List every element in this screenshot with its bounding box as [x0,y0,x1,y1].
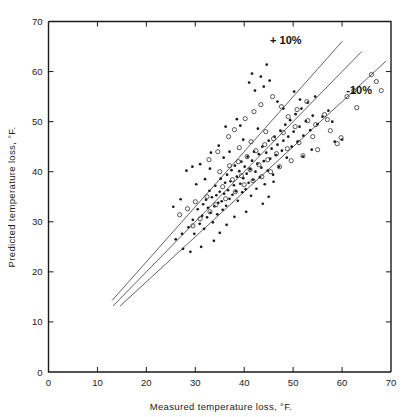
data-point-filled [213,239,216,242]
data-point-filled [254,170,257,173]
data-point-filled [196,208,199,211]
data-point-filled [267,139,270,142]
data-point-filled [217,144,220,147]
data-point-filled [242,138,245,141]
x-tick-label-0: 0 [46,377,51,388]
data-point-filled [187,226,190,229]
data-point-filled [270,147,273,150]
y-tick-label-70: 70 [32,16,43,27]
data-point-filled [172,205,175,208]
data-point-filled [222,156,225,159]
data-point-filled [218,190,221,193]
data-point-filled [212,221,215,224]
data-point-filled [309,129,312,132]
data-point-filled [202,203,205,206]
x-axis-title: Measured temperature loss, °F. [150,401,293,412]
y-tick-label-0: 0 [37,367,42,378]
data-point-filled [233,215,236,218]
data-point-filled [248,81,251,84]
data-point-filled [276,100,279,103]
data-point-filled [237,199,240,202]
x-tick-label-60: 60 [337,377,348,388]
data-point-filled [207,206,210,209]
x-tick-label-50: 50 [288,377,299,388]
plot-background [0,0,408,417]
data-point-filled [245,172,248,175]
data-point-filled [199,163,202,166]
data-point-filled [263,183,266,186]
data-point-filled [292,130,295,133]
y-tick-label-60: 60 [32,66,43,77]
data-point-filled [262,160,265,163]
data-point-filled [272,173,275,176]
data-point-filled [314,95,317,98]
figure-container: 010203040506070 010203040506070 + 10%-10… [0,0,408,417]
data-point-filled [225,223,228,226]
y-tick-label-30: 30 [32,216,43,227]
data-point-filled [265,63,268,66]
data-point-filled [258,153,261,156]
data-point-filled [214,184,217,187]
data-point-filled [245,210,248,213]
data-point-filled [191,165,194,168]
data-point-filled [260,166,263,169]
data-point-filled [310,148,313,151]
data-point-filled [210,151,213,154]
data-point-filled [204,178,207,181]
data-point-filled [247,181,250,184]
data-point-filled [299,98,302,101]
y-tick-label-40: 40 [32,166,43,177]
y-axis-title: Predicted temperature loss, °F. [6,127,17,268]
data-point-filled [216,213,219,216]
data-point-filled [189,250,192,253]
data-point-filled [211,196,214,199]
y-tick-label-20: 20 [32,266,43,277]
data-point-filled [262,85,265,88]
data-point-filled [265,151,268,154]
data-point-filled [272,180,275,183]
data-point-filled [294,113,297,116]
data-point-filled [224,181,227,184]
data-point-filled [293,90,296,93]
data-point-filled [203,227,206,230]
data-point-filled [191,218,194,221]
data-point-filled [195,183,198,186]
data-point-filled [251,159,254,162]
data-point-filled [236,175,239,178]
annotation-minus-10-percent: -10% [346,84,372,96]
data-point-filled [179,198,182,201]
data-point-filled [311,114,314,117]
data-point-filled [236,118,239,121]
data-point-filled [254,89,257,92]
data-point-filled [261,202,264,205]
data-point-filled [228,150,231,153]
data-point-filled [284,123,287,126]
data-point-filled [181,232,184,235]
data-point-filled [300,107,303,110]
data-point-filled [276,143,279,146]
data-point-filled [241,191,244,194]
data-point-filled [226,173,229,176]
data-point-filled [260,75,263,78]
data-point-filled [255,187,258,190]
data-point-filled [285,156,288,159]
data-point-filled [257,127,260,130]
data-point-filled [302,134,305,137]
data-point-filled [244,188,247,191]
data-point-filled [198,222,201,225]
data-point-filled [224,125,227,128]
data-point-filled [331,120,334,123]
data-point-filled [281,149,284,152]
x-tick-label-10: 10 [92,377,103,388]
data-point-filled [290,145,293,148]
data-point-filled [239,124,242,127]
data-point-filled [268,79,271,82]
data-point-filled [238,170,241,173]
data-point-filled [267,195,270,198]
data-point-filled [228,197,231,200]
data-point-filled [174,238,177,241]
data-point-filled [289,119,292,122]
y-tick-label-10: 10 [32,316,43,327]
data-point-filled [218,231,221,234]
x-tick-label-70: 70 [386,377,397,388]
